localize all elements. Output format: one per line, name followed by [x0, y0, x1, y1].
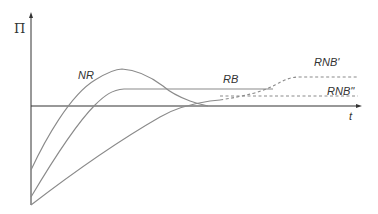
- curve-label-rnb-prime: RNB': [314, 57, 339, 68]
- diagram-canvas: [0, 0, 378, 214]
- curve-rb: [31, 89, 273, 197]
- x-axis-arrow-icon: [356, 104, 362, 108]
- curve-label-nr: NR: [78, 70, 94, 81]
- y-axis-arrow-icon: [29, 12, 33, 18]
- curve-label-rb: RB: [223, 74, 238, 85]
- y-axis-label: Π: [14, 22, 25, 35]
- x-axis-label: t: [349, 111, 352, 122]
- curve-rnb-solid: [31, 100, 220, 205]
- curve-label-rnb-double-prime: RNB'': [327, 86, 354, 97]
